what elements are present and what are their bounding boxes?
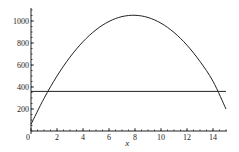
chart: 024681012142004006008001000x [0, 0, 239, 152]
x-tick-label: 6 [107, 133, 111, 142]
plot-area: 024681012142004006008001000x [13, 8, 227, 148]
x-tick-label: 4 [81, 133, 85, 142]
x-tick-label: 12 [183, 133, 191, 142]
x-tick-label: 2 [55, 133, 59, 142]
x-tick-label: 8 [133, 133, 137, 142]
x-tick-label: 14 [209, 133, 217, 142]
y-tick-label: 1000 [13, 17, 29, 26]
y-tick-label: 400 [17, 83, 29, 92]
x-tick-label: 10 [157, 133, 165, 142]
y-tick-label: 800 [17, 39, 29, 48]
series-curve [31, 15, 226, 124]
y-tick-label: 200 [17, 105, 29, 114]
x-tick-label: 0 [26, 133, 30, 142]
y-tick-label: 600 [17, 61, 29, 70]
x-axis-label: x [124, 138, 129, 148]
